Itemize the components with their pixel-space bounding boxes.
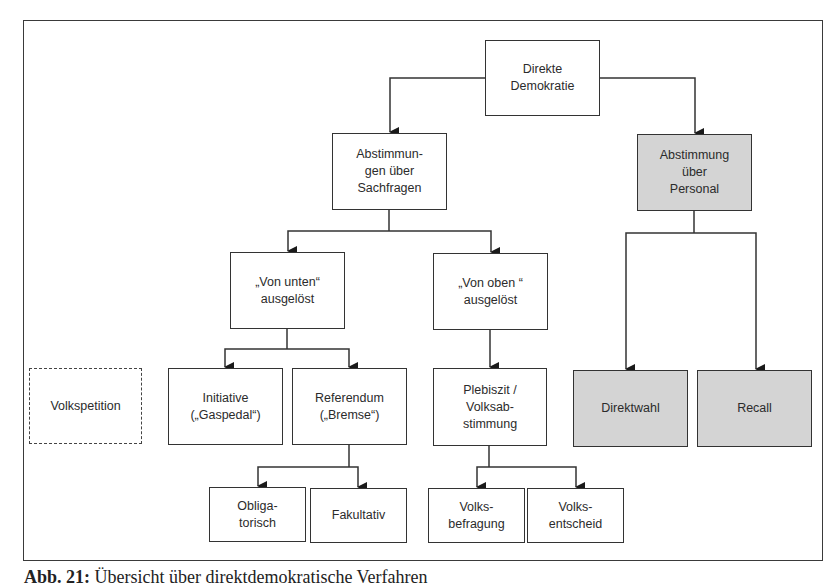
- node-referendum: Referendum („Bremse“): [292, 368, 407, 445]
- node-volksbefragung: Volks- befragung: [428, 488, 525, 543]
- caption-text: Übersicht über direktdemokratische Verfa…: [95, 567, 428, 587]
- node-recall: Recall: [697, 370, 812, 447]
- node-initiative: Initiative („Gaspedal“): [168, 368, 283, 445]
- node-volksentscheid: Volks- entscheid: [527, 488, 624, 543]
- node-von-unten: „Von unten“ ausgelöst: [230, 252, 345, 329]
- node-direktwahl: Direktwahl: [573, 370, 688, 447]
- node-obligatorisch: Obliga- torisch: [209, 487, 306, 542]
- caption-label: Abb. 21:: [24, 567, 90, 587]
- node-fakultativ: Fakultativ: [310, 488, 407, 543]
- node-abstimmung-personal: Abstimmung über Personal: [637, 134, 752, 211]
- node-abstimmungen-sachfragen: Abstimmun- gen über Sachfragen: [332, 133, 447, 210]
- node-direkte-demokratie: Direkte Demokratie: [485, 40, 600, 116]
- node-plebiszit: Plebiszit / Volksab- stimmung: [433, 368, 547, 446]
- node-von-oben: „Von oben “ ausgelöst: [433, 253, 548, 330]
- diagram-frame: [23, 20, 823, 561]
- node-volkspetition: Volkspetition: [29, 368, 142, 444]
- figure-caption: Abb. 21: Übersicht über direktdemokratis…: [24, 566, 428, 587]
